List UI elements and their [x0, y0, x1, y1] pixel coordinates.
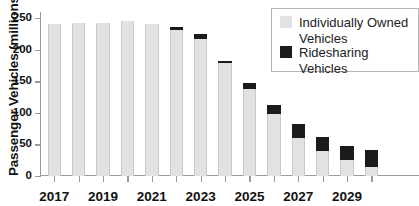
- legend-swatch-ride: [280, 46, 292, 58]
- x-tick-label: 2017: [31, 189, 77, 204]
- x-tick-label: 2023: [178, 189, 224, 204]
- y-tick-label: 100: [0, 107, 32, 118]
- y-tick-label: 50: [0, 138, 32, 149]
- y-tick-mark: [35, 50, 41, 51]
- x-tick-mark: [323, 176, 324, 182]
- bar-segment-ridesharing: [194, 34, 208, 39]
- bar-segment-individually-owned: [340, 160, 354, 176]
- legend-label: Ridesharing Vehicles: [299, 45, 417, 76]
- x-tick-mark: [201, 176, 202, 182]
- y-tick-mark: [35, 176, 41, 177]
- bar-segment-individually-owned: [170, 30, 184, 176]
- x-tick-label: 2027: [275, 189, 321, 204]
- chart-legend: Individually Owned VehiclesRidesharing V…: [271, 8, 419, 72]
- x-tick-mark: [347, 176, 348, 182]
- x-tick-mark: [103, 176, 104, 182]
- bar-segment-individually-owned: [316, 151, 330, 176]
- bar-group: [145, 12, 159, 176]
- legend-swatch-owned: [280, 16, 292, 28]
- bar-segment-ridesharing: [340, 146, 354, 161]
- bar-segment-ridesharing: [316, 137, 330, 152]
- bar-segment-ridesharing: [267, 105, 281, 114]
- bar-segment-ridesharing: [170, 27, 184, 30]
- bar-segment-ridesharing: [243, 83, 257, 89]
- bar-group: [243, 12, 257, 176]
- y-axis-title: Passenger Vehicles (millions): [6, 0, 24, 176]
- bar-segment-individually-owned: [243, 89, 257, 176]
- y-axis-line: [40, 12, 41, 176]
- x-tick-mark: [225, 176, 226, 182]
- bar-segment-individually-owned: [218, 63, 232, 176]
- bar-segment-individually-owned: [72, 23, 86, 176]
- legend-entry: Ridesharing Vehicles: [280, 45, 417, 76]
- y-tick-label: 0: [0, 170, 32, 181]
- x-tick-label: 2021: [129, 189, 175, 204]
- bar-group: [121, 12, 135, 176]
- legend-label: Individually Owned Vehicles: [299, 15, 417, 46]
- bar-segment-individually-owned: [292, 138, 306, 176]
- bar-group: [194, 12, 208, 176]
- x-tick-mark: [176, 176, 177, 182]
- x-tick-mark: [298, 176, 299, 182]
- bar-segment-ridesharing: [292, 124, 306, 138]
- x-tick-mark: [127, 176, 128, 182]
- x-tick-mark: [371, 176, 372, 182]
- x-tick-label: 2019: [80, 189, 126, 204]
- bar-group: [218, 12, 232, 176]
- bar-segment-individually-owned: [48, 24, 62, 176]
- bar-segment-individually-owned: [96, 23, 110, 176]
- y-tick-label: 250: [0, 12, 32, 23]
- bar-segment-individually-owned: [121, 21, 135, 176]
- x-tick-mark: [79, 176, 80, 182]
- bar-group: [72, 12, 86, 176]
- bar-segment-ridesharing: [365, 150, 379, 167]
- y-tick-mark: [35, 18, 41, 19]
- x-tick-mark: [249, 176, 250, 182]
- bar-group: [170, 12, 184, 176]
- x-tick-mark: [152, 176, 153, 182]
- x-tick-mark: [54, 176, 55, 182]
- y-tick-mark: [35, 144, 41, 145]
- bar-group: [96, 12, 110, 176]
- x-tick-label: 2029: [324, 189, 370, 204]
- legend-entry: Individually Owned Vehicles: [280, 15, 417, 46]
- bar-group: [48, 12, 62, 176]
- bar-chart: Passenger Vehicles (millions) 0501001502…: [0, 0, 419, 206]
- bar-segment-individually-owned: [194, 39, 208, 176]
- x-tick-label: 2025: [226, 189, 272, 204]
- bar-segment-ridesharing: [218, 61, 232, 64]
- x-tick-mark: [274, 176, 275, 182]
- y-tick-mark: [35, 113, 41, 114]
- bar-segment-individually-owned: [365, 167, 379, 176]
- bar-segment-individually-owned: [145, 24, 159, 176]
- y-tick-mark: [35, 81, 41, 82]
- y-tick-label: 200: [0, 44, 32, 55]
- y-tick-label: 150: [0, 75, 32, 86]
- bar-segment-individually-owned: [267, 114, 281, 176]
